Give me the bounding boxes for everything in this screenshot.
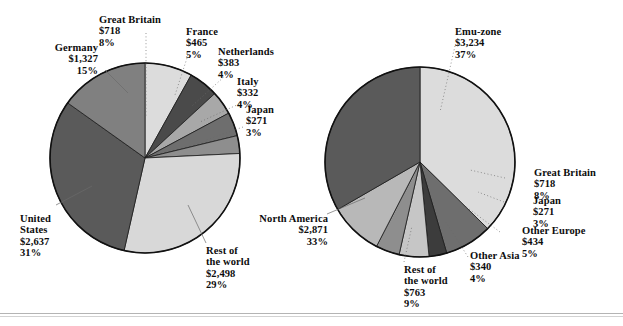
label-united-states-percent: 31%	[20, 247, 66, 258]
right-pie-chart	[325, 67, 515, 257]
label-great-britain-left: Great Britain $718 8%	[99, 14, 161, 48]
label-france-name: France	[186, 26, 218, 37]
label-emu-zone-percent: 37%	[455, 49, 501, 60]
label-japan-left-value: $271	[246, 115, 274, 126]
label-great-britain-right-name: Great Britain	[534, 167, 596, 178]
label-north-america: North America $2,871 33%	[246, 213, 328, 247]
label-rest-of-world-right-value: $763	[404, 287, 448, 298]
label-united-states: United States $2,637 31%	[20, 213, 66, 259]
label-france: France $465 5%	[186, 26, 218, 60]
label-netherlands-value: $383	[218, 57, 274, 68]
left-pie-chart	[50, 63, 240, 253]
label-japan-right-value: $271	[533, 206, 561, 217]
label-other-europe-value: $434	[522, 236, 586, 247]
label-rest-of-world-left: Rest of the world $2,498 29%	[206, 245, 250, 291]
label-germany: Germany $1,327 15%	[6, 42, 98, 76]
footer-rule-2	[0, 316, 623, 317]
label-other-asia-value: $340	[470, 261, 520, 272]
label-north-america-percent: 33%	[246, 236, 328, 247]
label-other-asia: Other Asia $340 4%	[470, 250, 520, 284]
label-emu-zone: Emu-zone $3,234 37%	[455, 26, 501, 60]
label-japan-left: Japan $271 3%	[246, 104, 274, 138]
label-other-asia-percent: 4%	[470, 273, 520, 284]
label-north-america-value: $2,871	[246, 224, 328, 235]
label-italy-value: $332	[237, 87, 259, 98]
label-rest-of-world-left-percent: 29%	[206, 279, 250, 290]
label-other-europe-name: Other Europe	[522, 225, 586, 236]
label-japan-right-name: Japan	[533, 195, 561, 206]
label-japan-left-name: Japan	[246, 104, 274, 115]
label-great-britain-left-value: $718	[99, 25, 161, 36]
label-great-britain-right-value: $718	[534, 178, 596, 189]
label-italy-name: Italy	[237, 76, 259, 87]
label-rest-of-world-right-name: Rest of	[404, 264, 448, 275]
footer-rule-1	[0, 313, 623, 314]
label-rest-of-world-right: Rest of the world $763 9%	[404, 264, 448, 310]
label-united-states-value: $2,637	[20, 236, 66, 247]
label-great-britain-left-name: Great Britain	[99, 14, 161, 25]
label-united-states-name: United States	[20, 213, 66, 236]
label-other-europe-percent: 5%	[522, 248, 586, 259]
label-netherlands-name: Netherlands	[218, 46, 274, 57]
label-north-america-name: North America	[246, 213, 328, 224]
label-other-europe: Other Europe $434 5%	[522, 225, 586, 259]
label-rest-of-world-left-value: $2,498	[206, 268, 250, 279]
label-france-value: $465	[186, 37, 218, 48]
label-rest-of-world-right-percent: 9%	[404, 298, 448, 309]
figure-container: Germany $1,327 15% Great Britain $718 8%…	[0, 0, 623, 326]
label-other-asia-name: Other Asia	[470, 250, 520, 261]
label-emu-zone-value: $3,234	[455, 37, 501, 48]
label-germany-percent: 15%	[6, 65, 98, 76]
label-rest-of-world-right-name2: the world	[404, 275, 448, 286]
label-emu-zone-name: Emu-zone	[455, 26, 501, 37]
label-japan-left-percent: 3%	[246, 127, 274, 138]
label-great-britain-left-percent: 8%	[99, 37, 161, 48]
label-rest-of-world-left-name: Rest of	[206, 245, 250, 256]
label-germany-value: $1,327	[6, 53, 98, 64]
label-rest-of-world-left-name2: the world	[206, 256, 250, 267]
label-france-percent: 5%	[186, 49, 218, 60]
label-germany-name: Germany	[6, 42, 98, 53]
